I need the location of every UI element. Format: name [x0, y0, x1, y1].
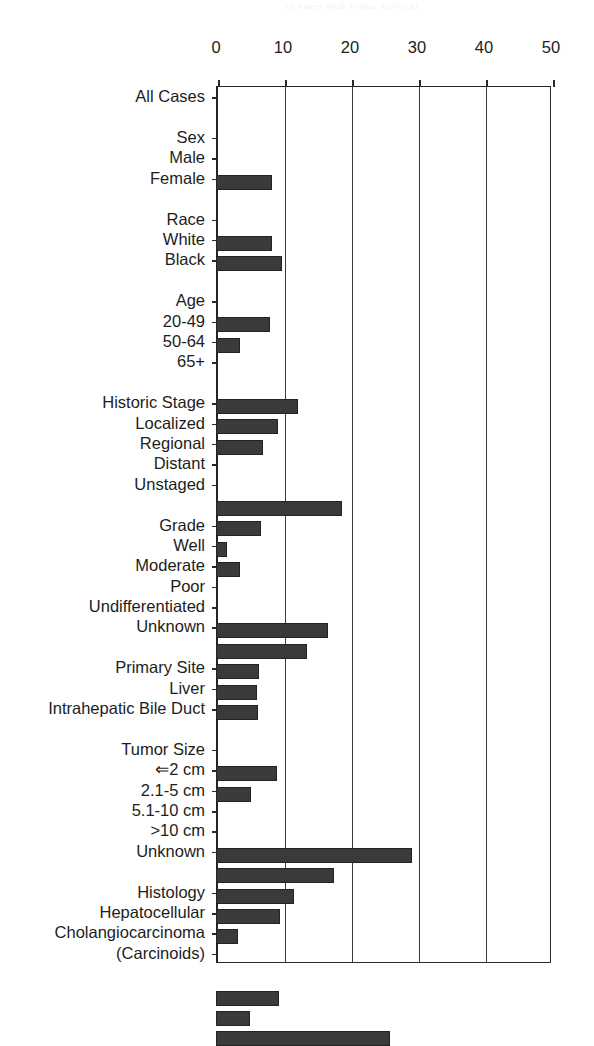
bar-female — [216, 256, 282, 271]
category-label-moderate: Moderate — [135, 557, 205, 574]
category-label-unknown: Unknown — [136, 618, 205, 635]
bar-unknown — [216, 705, 258, 720]
group-label-age: Age — [176, 292, 205, 309]
group-label-tumor-size: Tumor Size — [121, 741, 205, 758]
category-label-2-cm: ⇐2 cm — [155, 761, 205, 778]
category-label-2-1-5-cm: 2.1-5 cm — [141, 782, 205, 799]
bar-localized — [216, 501, 342, 516]
category-label-unstaged: Unstaged — [134, 476, 205, 493]
x-axis-tick-label-20: 20 — [341, 38, 359, 57]
bar-liver — [216, 766, 277, 781]
bar-2-1-5-cm — [216, 868, 334, 883]
bar-65 — [216, 440, 263, 455]
group-label-race: Race — [166, 211, 205, 228]
category-label-intrahepatic-bile-duct: Intrahepatic Bile Duct — [48, 700, 205, 717]
x-axis-tick-label-10: 10 — [274, 38, 292, 57]
group-label-grade: Grade — [159, 517, 205, 534]
bar-moderate — [216, 644, 307, 659]
bar-intrahepatic-bile-duct — [216, 787, 251, 802]
x-axis-tick-label-0: 0 — [211, 38, 220, 57]
bar-20-49 — [216, 399, 298, 414]
bar-2-cm — [216, 848, 412, 863]
category-label-female: Female — [150, 170, 205, 187]
category-label-all-cases: All Cases — [135, 88, 205, 105]
category-label-poor: Poor — [170, 578, 205, 595]
x-axis-tick-label-30: 30 — [408, 38, 426, 57]
category-label-carcinoids: (Carcinoids) — [116, 945, 205, 962]
x-axis-tick-labels: 01020304050 — [0, 38, 594, 60]
category-label-50-64: 50-64 — [163, 333, 205, 350]
bar-black — [216, 338, 240, 353]
category-label-cholangiocarcinoma: Cholangiocarcinoma — [55, 924, 205, 941]
category-label-male: Male — [169, 149, 205, 166]
category-label-black: Black — [165, 251, 205, 268]
bar-unstaged — [216, 562, 240, 577]
bar-50-64 — [216, 419, 278, 434]
category-label-unknown: Unknown — [136, 843, 205, 860]
bar-5-1-10-cm — [216, 889, 294, 904]
group-label-sex: Sex — [177, 129, 205, 146]
bar-unknown — [216, 929, 238, 944]
category-label-65: 65+ — [177, 353, 205, 370]
bar-undifferentiated — [216, 685, 257, 700]
bar-all-cases — [216, 175, 272, 190]
group-label-histology: Histology — [137, 884, 205, 901]
x-axis-tick-label-40: 40 — [475, 38, 493, 57]
category-label-undifferentiated: Undifferentiated — [89, 598, 205, 615]
category-label-liver: Liver — [169, 680, 205, 697]
bar-distant — [216, 542, 227, 557]
bar-poor — [216, 664, 259, 679]
category-label-20-49: 20-49 — [163, 313, 205, 330]
category-label-white: White — [163, 231, 205, 248]
category-label-distant: Distant — [154, 455, 205, 472]
bar-male — [216, 236, 272, 251]
category-label-5-1-10-cm: 5.1-10 cm — [132, 802, 205, 819]
group-label-historic-stage: Historic Stage — [102, 394, 205, 411]
category-label-well: Well — [173, 537, 205, 554]
bar-10-cm — [216, 909, 280, 924]
bar-regional — [216, 521, 261, 536]
category-label-10-cm: >10 cm — [150, 822, 205, 839]
bar-well — [216, 623, 328, 638]
chart-rows: All CasesSexMaleFemaleRaceWhiteBlackAge2… — [0, 86, 594, 963]
x-axis-tick-label-50: 50 — [542, 38, 560, 57]
category-label-regional: Regional — [140, 435, 205, 452]
bar-white — [216, 317, 270, 332]
category-label-localized: Localized — [135, 415, 205, 432]
bar-cholangiocarcinoma — [216, 1011, 250, 1026]
group-label-primary-site: Primary Site — [115, 659, 205, 676]
category-label-hepatocellular: Hepatocellular — [100, 904, 205, 921]
bar-hepatocellular — [216, 991, 279, 1006]
bar-carcinoids — [216, 1031, 390, 1046]
